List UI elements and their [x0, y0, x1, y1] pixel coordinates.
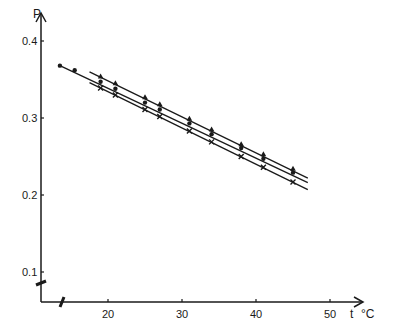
y-tick-label: 0.1 [22, 266, 37, 278]
x-tick-label: 40 [250, 308, 262, 320]
circle-marker-icon [239, 146, 243, 150]
x-axis-break-icon [60, 297, 64, 307]
x-axis-label-t: t [350, 307, 354, 321]
series-line [90, 72, 308, 178]
circle-marker-icon [98, 80, 102, 84]
circle-marker-icon [291, 170, 295, 174]
axes [36, 13, 363, 307]
series [58, 63, 308, 182]
triangle-marker-icon [238, 141, 244, 146]
series-group [58, 63, 308, 189]
circle-marker-icon [261, 157, 265, 161]
ticks: 203040500.10.20.30.4 [22, 35, 336, 320]
y-tick-label: 0.4 [22, 35, 37, 47]
y-tick-label: 0.2 [22, 189, 37, 201]
triangle-marker-icon [187, 116, 193, 121]
x-tick-label: 30 [176, 308, 188, 320]
circle-marker-icon [187, 121, 191, 125]
chart-canvas: 203040500.10.20.30.4 P t °C [0, 0, 399, 329]
y-tick-label: 0.3 [22, 112, 37, 124]
circle-marker-icon [113, 87, 117, 91]
triangle-marker-icon [261, 151, 267, 156]
x-tick-label: 20 [102, 308, 114, 320]
triangle-marker-icon [209, 127, 215, 132]
circle-marker-icon [73, 68, 77, 72]
circle-marker-icon [58, 63, 62, 67]
cross-marker-icon [98, 85, 103, 90]
series [90, 72, 308, 178]
series [90, 83, 308, 190]
triangle-marker-icon [157, 101, 163, 106]
circle-marker-icon [209, 132, 213, 136]
y-axis-break-icon [36, 281, 46, 285]
series-line [90, 83, 308, 190]
triangle-marker-icon [290, 166, 296, 171]
x-tick-label: 50 [324, 308, 336, 320]
circle-marker-icon [143, 100, 147, 104]
x-axis-label-unit: °C [361, 307, 375, 321]
series-line [60, 66, 308, 183]
y-axis-label: P [33, 7, 41, 21]
circle-marker-icon [158, 107, 162, 111]
triangle-marker-icon [142, 94, 148, 99]
